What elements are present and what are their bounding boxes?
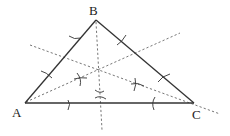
side-bc — [96, 20, 194, 103]
vertex-label-a: A — [12, 105, 22, 120]
arc-ab-upper — [69, 36, 81, 39]
bisector-ac — [96, 22, 102, 130]
vertex-label-c: C — [192, 107, 201, 122]
triangle-diagram: B A C — [0, 0, 230, 136]
vertex-label-b: B — [89, 3, 98, 18]
arc-ac-left — [68, 100, 70, 110]
arc-cross-2a — [134, 78, 136, 91]
side-ab — [25, 20, 96, 103]
arc-cross-3a — [95, 90, 104, 92]
arc-cross-1a — [77, 73, 81, 86]
